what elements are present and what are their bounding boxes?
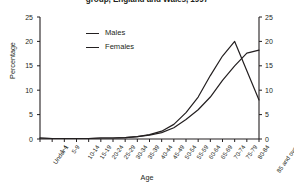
series-line-females (40, 50, 259, 138)
y-tick-label: 15 (265, 62, 279, 69)
y-tick-label: 25 (265, 14, 279, 21)
y-tick-label: 0 (19, 136, 33, 143)
y-tick-label: 20 (265, 38, 279, 45)
data-series-group (40, 41, 259, 138)
y-tick-label: 10 (265, 87, 279, 94)
y-tick-label: 20 (19, 38, 33, 45)
y-tick-label: 10 (19, 87, 33, 94)
y-tick-label: 5 (19, 111, 33, 118)
series-line-males (40, 41, 259, 138)
y-tick-label: 5 (265, 111, 279, 118)
chart-container: group, England and Wales, 1997 Males Fem… (0, 0, 294, 188)
y-tick-label: 15 (19, 62, 33, 69)
axes (40, 17, 259, 139)
y-tick-label: 25 (19, 14, 33, 21)
y-tick-label: 0 (265, 136, 279, 143)
